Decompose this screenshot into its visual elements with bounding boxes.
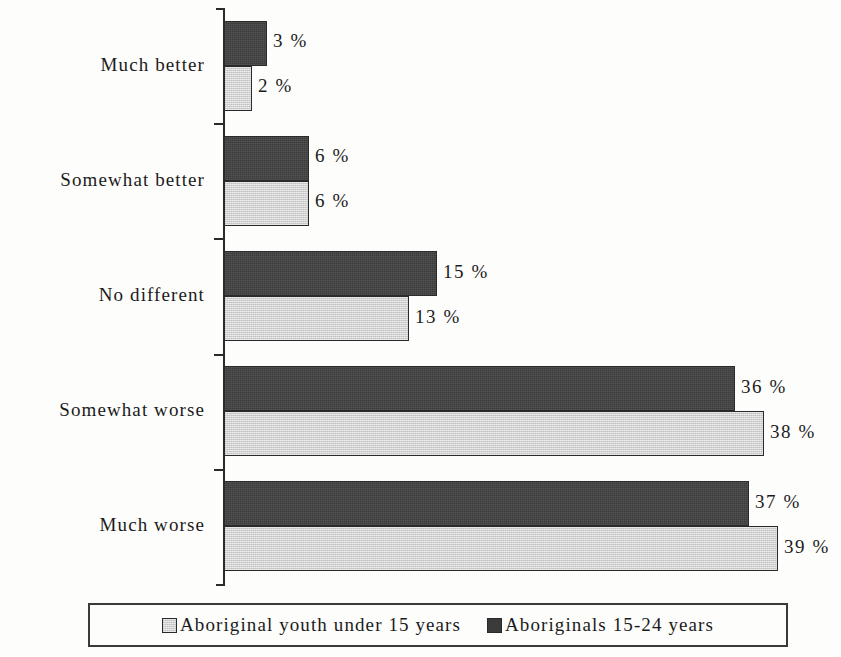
chart-legend: Aboriginal youth under 15 years Aborigin… — [88, 603, 788, 647]
bar-aboriginals-15-24 — [224, 21, 267, 66]
dark-swatch-icon — [487, 618, 502, 633]
bar-aboriginals-15-24 — [224, 136, 309, 181]
bar-value-label: 6 % — [315, 145, 350, 167]
axis-cap-bottom — [216, 584, 225, 586]
bar-youth-under-15 — [224, 66, 252, 111]
bar-aboriginals-15-24 — [224, 366, 735, 411]
legend-entry-aboriginals-15-24: Aboriginals 15-24 years — [487, 614, 714, 636]
axis-tick — [214, 238, 225, 240]
bar-value-label: 38 % — [770, 421, 816, 443]
bar-value-label: 39 % — [784, 536, 830, 558]
light-swatch-icon — [162, 618, 177, 633]
bar-value-label: 15 % — [443, 261, 489, 283]
axis-cap-top — [216, 8, 225, 10]
category-label: Much worse — [100, 514, 205, 536]
bar-youth-under-15 — [224, 411, 764, 456]
bar-value-label: 37 % — [755, 491, 801, 513]
legend-label: Aboriginal youth under 15 years — [180, 614, 461, 636]
axis-tick — [214, 354, 225, 356]
bar-aboriginals-15-24 — [224, 481, 749, 526]
bar-chart: Much better3 %2 %Somewhat better6 %6 %No… — [0, 0, 841, 657]
category-label: Much better — [101, 54, 205, 76]
plot-area: Much better3 %2 %Somewhat better6 %6 %No… — [0, 0, 841, 600]
bar-value-label: 6 % — [315, 190, 350, 212]
bar-value-label: 2 % — [258, 75, 293, 97]
category-label: No different — [99, 284, 205, 306]
bar-value-label: 36 % — [741, 376, 787, 398]
bar-youth-under-15 — [224, 296, 409, 341]
bar-youth-under-15 — [224, 181, 309, 226]
axis-tick — [214, 123, 225, 125]
axis-tick — [214, 469, 225, 471]
bar-youth-under-15 — [224, 526, 778, 571]
category-label: Somewhat better — [60, 169, 205, 191]
legend-label: Aboriginals 15-24 years — [505, 614, 714, 636]
legend-entry-youth-under-15: Aboriginal youth under 15 years — [162, 614, 461, 636]
category-label: Somewhat worse — [59, 399, 205, 421]
bar-aboriginals-15-24 — [224, 251, 437, 296]
bar-value-label: 13 % — [415, 306, 461, 328]
bar-value-label: 3 % — [273, 30, 308, 52]
